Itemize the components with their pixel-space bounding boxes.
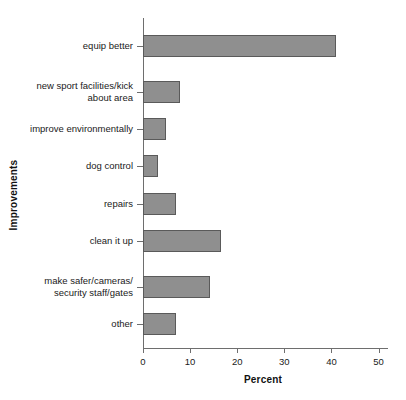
x-tick-label: 50 xyxy=(364,356,394,367)
y-label-line: dog control xyxy=(5,160,133,172)
y-category-label-clean-it-up: clean it up xyxy=(5,235,133,247)
bar-make-safer xyxy=(143,276,210,298)
y-category-label-other: other xyxy=(5,318,133,330)
x-tick xyxy=(190,348,191,353)
y-label-line: security staff/gates xyxy=(5,287,133,299)
x-tick-label: 0 xyxy=(128,356,158,367)
x-tick-label: 40 xyxy=(316,356,346,367)
y-axis-line xyxy=(143,18,144,348)
y-label-line: repairs xyxy=(5,198,133,210)
bar-other xyxy=(143,313,176,335)
y-label-line: about area xyxy=(5,92,133,104)
y-label-line: make safer/cameras/ xyxy=(5,275,133,287)
y-category-label-equip-better: equip better xyxy=(5,40,133,52)
y-category-label-improve-environmentally: improve environmentally xyxy=(5,123,133,135)
y-label-line: new sport facilities/kick xyxy=(5,80,133,92)
y-category-label-repairs: repairs xyxy=(5,198,133,210)
x-tick-label: 10 xyxy=(175,356,205,367)
x-tick xyxy=(331,348,332,353)
bar-new-sport-facilities xyxy=(143,81,180,103)
y-label-line: other xyxy=(5,318,133,330)
bar-clean-it-up xyxy=(143,230,221,252)
y-label-line: equip better xyxy=(5,40,133,52)
x-tick-label: 20 xyxy=(222,356,252,367)
bar-dog-control xyxy=(143,155,158,177)
x-tick xyxy=(379,348,380,353)
bar-chart: Improvements xyxy=(0,0,406,400)
x-axis-title: Percent xyxy=(143,374,383,385)
y-category-label-make-safer: make safer/cameras/ security staff/gates xyxy=(5,275,133,298)
y-label-line: improve environmentally xyxy=(5,123,133,135)
plot-area: 0 10 20 30 40 50 xyxy=(143,18,388,348)
bar-improve-environmentally xyxy=(143,118,166,140)
x-tick xyxy=(237,348,238,353)
y-category-label-new-sport-facilities: new sport facilities/kick about area xyxy=(5,80,133,103)
bar-equip-better xyxy=(143,35,336,57)
x-tick-label: 30 xyxy=(269,356,299,367)
y-label-line: clean it up xyxy=(5,235,133,247)
y-category-label-dog-control: dog control xyxy=(5,160,133,172)
bar-repairs xyxy=(143,193,176,215)
x-axis-line xyxy=(143,348,388,349)
x-tick xyxy=(143,348,144,353)
x-tick xyxy=(284,348,285,353)
